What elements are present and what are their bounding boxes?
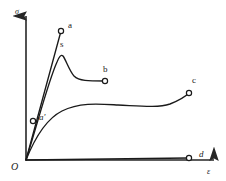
point-marker-c	[186, 90, 191, 95]
curve-s-b	[26, 55, 105, 160]
origin-label: O	[11, 162, 18, 172]
label-s: s	[60, 40, 64, 49]
x-axis-label-epsilon: ε	[207, 168, 210, 176]
plot-canvas	[0, 0, 226, 181]
point-markers-group	[30, 28, 191, 160]
label-a: a	[68, 21, 72, 30]
label-b: b	[103, 65, 108, 74]
label-d: d	[199, 150, 204, 159]
curve-c	[26, 93, 189, 160]
axes-group	[26, 16, 214, 160]
label-c: c	[192, 76, 196, 85]
point-marker-a	[58, 28, 63, 33]
stress-strain-figure: σ ε O asbcda′	[0, 0, 226, 181]
point-marker-b	[102, 78, 107, 83]
y-axis-label-sigma: σ	[15, 8, 19, 16]
point-marker-d	[186, 155, 191, 160]
point-marker-a-prime	[30, 118, 35, 123]
curves-group	[26, 31, 189, 160]
label-a-prime: a′	[39, 113, 45, 122]
